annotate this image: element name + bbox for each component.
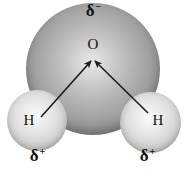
plus-sign: +	[150, 146, 156, 157]
oxygen-label: O	[88, 37, 99, 52]
partial-positive-right-label: δ+	[140, 147, 155, 164]
partial-positive-left-label: δ+	[30, 147, 45, 164]
dipole-arrows	[0, 0, 186, 177]
minus-sign: −	[96, 1, 102, 12]
partial-negative-charge-label: δ−	[86, 2, 101, 19]
delta-symbol: δ	[86, 1, 95, 20]
delta-symbol: δ	[30, 146, 39, 165]
delta-symbol: δ	[140, 146, 149, 165]
plus-sign: +	[40, 146, 46, 157]
right-dipole-arrow	[95, 61, 148, 113]
left-dipole-arrow	[41, 61, 91, 117]
water-molecule-diagram: δ− O H H δ+ δ+	[0, 0, 186, 177]
hydrogen-left-label: H	[24, 113, 35, 128]
hydrogen-right-label: H	[153, 113, 164, 128]
